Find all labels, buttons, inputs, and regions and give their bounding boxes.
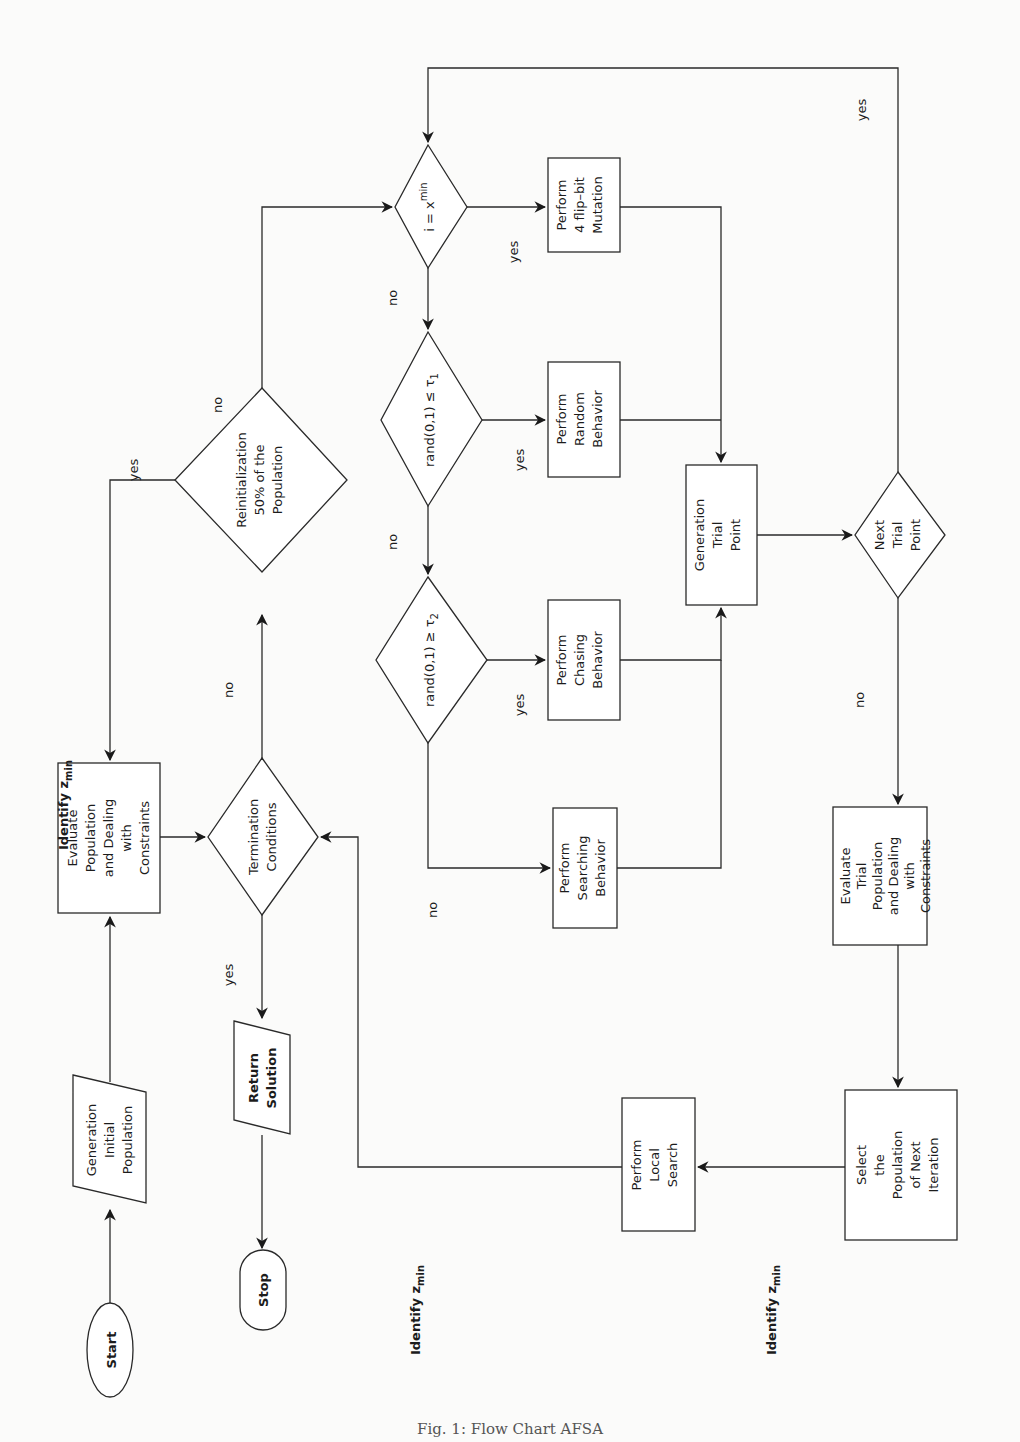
node-flipbit-line-2: 4 flip–bit <box>572 177 587 233</box>
node-evaltrial-line-1: Evaluate <box>838 848 853 905</box>
node-evaluate-population: Evaluate Population and Dealing with Con… <box>58 763 160 913</box>
node-termination-line-2: Conditions <box>264 802 279 871</box>
node-select-line-1: Select <box>854 1145 869 1185</box>
node-return-line-2: Solution <box>264 1048 279 1109</box>
flowchart: Start Generation Initial Population Eval… <box>0 0 1020 1442</box>
node-reinitialization: Reinitialization 50% of the Population <box>175 388 347 572</box>
node-reinit-line-1: Reinitialization <box>234 432 249 528</box>
edge-next-to-ixmin <box>428 68 898 472</box>
node-nexttrial-line-3: Point <box>908 519 923 551</box>
node-select-line-2: the <box>872 1154 887 1175</box>
node-flipbit-line-1: Perform <box>554 179 569 230</box>
node-termination-line-1: Termination <box>246 799 261 876</box>
node-perform-chasing: Perform Chasing Behavior <box>548 600 620 720</box>
node-generation-initial-population: Generation Initial Population <box>73 1075 146 1203</box>
node-evaluate-line-5: Constraints <box>137 801 152 875</box>
label-next-trial-no: no <box>852 692 867 708</box>
label-identify-zmin-3-sub: min <box>771 1265 782 1286</box>
label-termination-no: no <box>221 682 236 698</box>
label-identify-zmin-2-text: Identify z <box>408 1286 423 1355</box>
node-random-line-3: Behavior <box>590 389 605 447</box>
label-identify-zmin-2: Identify zmin <box>408 1265 426 1355</box>
node-init-line-2: Initial <box>102 1122 117 1158</box>
node-evaluate-trial: Evaluate Trial Population and Dealing wi… <box>833 807 933 945</box>
node-localsearch-line-3: Search <box>665 1143 680 1188</box>
edge-flipbit-to-trialpoint <box>620 207 721 462</box>
node-chasing-line-2: Chasing <box>572 634 587 686</box>
node-start-label: Start <box>104 1332 119 1369</box>
node-perform-flip-bit: Perform 4 flip–bit Mutation <box>548 158 620 252</box>
node-perform-searching: Perform Searching Behavior <box>553 808 617 928</box>
edge-reinit-to-evaluate <box>110 480 175 760</box>
node-chasing-line-1: Perform <box>554 634 569 685</box>
node-searching-line-3: Behavior <box>593 838 608 896</box>
node-nexttrial-line-1: Next <box>872 520 887 550</box>
edge-reinit-to-ixmin <box>262 207 392 428</box>
node-flipbit-line-3: Mutation <box>590 176 605 233</box>
node-ixmin-text: i = x <box>422 201 437 232</box>
edge-searching-to-trialpoint <box>617 660 721 868</box>
node-tau2-text: rand(0,1) ≥ τ <box>422 619 437 707</box>
node-evaltrial-line-2: Trial <box>854 863 869 891</box>
label-reinit-yes: yes <box>126 459 141 482</box>
node-rand-le-tau1: rand(0,1) ≤ τ1 <box>381 332 482 506</box>
node-return-solution: Return Solution <box>234 1021 290 1134</box>
node-reinit-line-2: 50% of the <box>252 444 267 515</box>
node-searching-line-2: Searching <box>575 836 590 901</box>
node-localsearch-line-1: Perform <box>629 1139 644 1190</box>
label-identify-zmin-2-sub: min <box>415 1265 426 1286</box>
label-identify-zmin-1-text: Identify z <box>56 781 71 850</box>
edge-tau2-to-searching <box>428 743 550 868</box>
node-random-line-2: Random <box>572 392 587 446</box>
node-reinit-line-3: Population <box>270 446 285 514</box>
node-tau1-text: rand(0,1) ≤ τ <box>422 379 437 467</box>
label-termination-yes: yes <box>221 964 236 987</box>
label-tau1-yes: yes <box>512 449 527 472</box>
node-select-line-5: Iteration <box>926 1137 941 1192</box>
node-evaltrial-line-6: Constraints <box>918 839 933 913</box>
node-select-line-3: Population <box>890 1131 905 1199</box>
node-next-trial-point: Next Trial Point <box>855 472 945 598</box>
node-perform-local-search: Perform Local Search <box>622 1098 695 1231</box>
node-nexttrial-line-2: Trial <box>890 522 905 550</box>
label-reinit-no: no <box>210 397 225 413</box>
node-select-population: Select the Population of Next Iteration <box>845 1090 957 1240</box>
label-identify-zmin-3: Identify zmin <box>764 1265 782 1355</box>
node-tau1-sub: 1 <box>429 373 440 379</box>
label-identify-zmin-3-text: Identify z <box>764 1286 779 1355</box>
node-termination-conditions: Termination Conditions <box>208 758 318 915</box>
node-localsearch-line-2: Local <box>647 1148 662 1182</box>
edge-chasing-to-trialpoint <box>620 608 721 660</box>
node-random-line-1: Perform <box>554 393 569 444</box>
label-ixmin-yes: yes <box>506 241 521 264</box>
node-tau2-sub: 2 <box>429 613 440 619</box>
node-perform-random: Perform Random Behavior <box>548 362 620 477</box>
label-next-trial-yes: yes <box>854 99 869 122</box>
node-stop-label: Stop <box>256 1273 271 1307</box>
node-evaluate-line-3: and Dealing <box>101 799 116 877</box>
node-trialpoint-line-3: Point <box>728 519 743 551</box>
node-generation-trial-point: Generation Trial Point <box>686 465 757 605</box>
node-searching-line-1: Perform <box>557 842 572 893</box>
node-chasing-line-3: Behavior <box>590 630 605 688</box>
label-ixmin-no: no <box>385 290 400 306</box>
label-tau2-no: no <box>425 902 440 918</box>
node-start: Start <box>87 1303 133 1397</box>
node-trialpoint-line-1: Generation <box>692 499 707 572</box>
node-init-line-1: Generation <box>84 1104 99 1177</box>
figure-caption: Fig. 1: Flow Chart AFSA <box>0 1420 1020 1438</box>
label-tau2-yes: yes <box>512 694 527 717</box>
node-return-line-1: Return <box>246 1053 261 1103</box>
label-tau1-no: no <box>385 534 400 550</box>
node-evaluate-line-4: with <box>119 824 134 852</box>
label-identify-zmin-1-sub: min <box>63 760 74 781</box>
node-rand-ge-tau2: rand(0,1) ≥ τ2 <box>376 577 487 743</box>
node-evaluate-line-2: Population <box>83 804 98 872</box>
node-stop: Stop <box>240 1250 286 1330</box>
node-i-equals-xmin: i = xmin <box>395 145 467 268</box>
node-ixmin-sup: min <box>418 182 429 201</box>
node-evaltrial-line-5: with <box>902 862 917 890</box>
node-trialpoint-line-2: Trial <box>710 522 725 550</box>
node-select-line-4: of Next <box>908 1142 923 1189</box>
node-evaltrial-line-4: and Dealing <box>886 837 901 915</box>
